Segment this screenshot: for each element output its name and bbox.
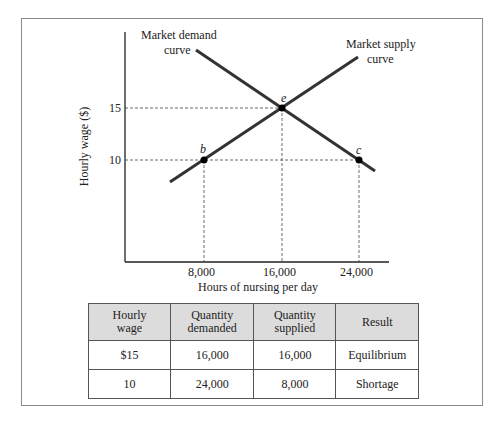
guide-lines — [125, 108, 359, 262]
point-c-label: c — [356, 144, 361, 157]
table-header-row: Hourlywage Quantitydemanded Quantitysupp… — [89, 304, 419, 341]
x-tick-16000: 16,000 — [263, 266, 296, 279]
supply-curve-label-1: Market supply — [346, 38, 416, 51]
cell-wage: 10 — [89, 370, 171, 399]
demand-curve-label-2: curve — [164, 44, 191, 57]
wage-table: Hourlywage Quantitydemanded Quantitysupp… — [88, 303, 419, 399]
y-tick-15: 15 — [109, 102, 121, 115]
cell-demanded: 24,000 — [171, 370, 254, 399]
header-result: Result — [336, 304, 419, 341]
cell-supplied: 8,000 — [254, 370, 336, 399]
header-quantity-demanded: Quantitydemanded — [171, 304, 254, 341]
cell-wage: $15 — [89, 341, 171, 370]
table-row: 10 24,000 8,000 Shortage — [89, 370, 419, 399]
demand-curve — [196, 50, 375, 171]
point-b-marker — [201, 157, 208, 164]
demand-curve-label-1: Market demand — [141, 29, 217, 42]
cell-result: Shortage — [336, 370, 419, 399]
cell-demanded: 16,000 — [171, 341, 254, 370]
x-tick-24000: 24,000 — [340, 266, 373, 279]
supply-curve-label-2: curve — [367, 53, 394, 66]
header-quantity-supplied: Quantitysupplied — [254, 304, 336, 341]
point-b-label: b — [200, 143, 206, 156]
supply-demand-chart — [0, 0, 499, 300]
point-e-label: e — [281, 92, 286, 105]
cell-supplied: 16,000 — [254, 341, 336, 370]
supply-curve — [170, 57, 358, 182]
x-axis-label: Hours of nursing per day — [198, 281, 318, 294]
y-axis-label: Hourly wage ($) — [78, 107, 91, 186]
header-hourly-wage: Hourlywage — [89, 304, 171, 341]
y-tick-10: 10 — [109, 154, 121, 167]
cell-result: Equilibrium — [336, 341, 419, 370]
table-row: $15 16,000 16,000 Equilibrium — [89, 341, 419, 370]
point-c-marker — [356, 157, 363, 164]
x-tick-8000: 8,000 — [188, 266, 215, 279]
point-e-marker — [279, 105, 286, 112]
